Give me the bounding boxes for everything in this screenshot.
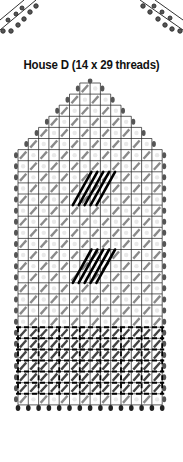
cross-gap (52, 197, 56, 201)
light-stitch (30, 185, 36, 192)
light-stitch (20, 285, 26, 292)
light-stitch (92, 141, 98, 148)
cross-gap (31, 397, 35, 401)
cross-gap (72, 109, 76, 113)
light-stitch (51, 363, 57, 370)
light-stitch (20, 351, 26, 358)
light-stitch (113, 351, 119, 358)
light-stitch (51, 207, 57, 214)
cross-gap (31, 153, 35, 157)
light-stitch (133, 318, 139, 325)
light-stitch (61, 240, 67, 247)
light-stitch (51, 163, 57, 170)
cross-gap (62, 231, 66, 235)
light-stitch (102, 351, 108, 358)
cross-gap (52, 175, 56, 179)
edge-dot (162, 152, 166, 158)
cross-gap (155, 286, 159, 290)
light-stitch (154, 163, 160, 170)
cross-gap (93, 153, 97, 157)
light-stitch (113, 329, 119, 336)
edge-dot (14, 263, 18, 269)
cross-gap (103, 208, 107, 212)
cross-gap (52, 242, 56, 246)
bottom-dot (150, 405, 155, 411)
bottom-dot (78, 405, 83, 411)
edge-dot (14, 296, 18, 302)
cross-gap (124, 297, 128, 301)
light-stitch (61, 196, 67, 203)
cross-gap (42, 275, 46, 279)
light-stitch (72, 363, 78, 370)
light-stitch (123, 340, 129, 347)
edge-dot (100, 86, 104, 92)
cross-gap (155, 220, 159, 224)
light-stitch (30, 374, 36, 381)
cross-gap (155, 308, 159, 312)
cross-gap (124, 208, 128, 212)
cross-gap (103, 319, 107, 323)
light-stitch (82, 307, 88, 314)
cross-gap (52, 131, 56, 135)
light-stitch (41, 174, 47, 181)
light-stitch (61, 152, 67, 159)
cross-gap (72, 286, 76, 290)
light-stitch (123, 152, 129, 159)
cross-gap (114, 242, 118, 246)
light-stitch (51, 229, 57, 236)
bottom-dot (47, 405, 52, 411)
light-stitch (133, 385, 139, 392)
light-stitch (123, 351, 129, 358)
cross-gap (155, 397, 159, 401)
cross-gap (134, 197, 138, 201)
light-stitch (133, 329, 139, 336)
cross-gap (134, 131, 138, 135)
light-stitch (30, 318, 36, 325)
cross-gap (21, 275, 25, 279)
cross-gap (72, 397, 76, 401)
cross-gap (155, 264, 159, 268)
light-stitch (82, 385, 88, 392)
light-stitch (61, 285, 67, 292)
bottom-dot (57, 405, 62, 411)
light-stitch (20, 307, 26, 314)
light-stitch (72, 96, 78, 103)
light-stitch (72, 351, 78, 358)
light-stitch (113, 207, 119, 214)
light-stitch (154, 363, 160, 370)
cross-gap (93, 131, 97, 135)
light-stitch (123, 174, 129, 181)
cross-gap (62, 142, 66, 146)
cross-gap (145, 142, 149, 146)
light-stitch (123, 129, 129, 136)
cross-gap (42, 142, 46, 146)
light-stitch (82, 396, 88, 403)
light-stitch (20, 374, 26, 381)
light-stitch (144, 351, 150, 358)
light-stitch (41, 351, 47, 358)
light-stitch (30, 163, 36, 170)
cross-gap (155, 175, 159, 179)
light-stitch (82, 329, 88, 336)
light-stitch (72, 340, 78, 347)
cross-gap (42, 208, 46, 212)
edge-dot (162, 252, 166, 258)
cross-gap (31, 242, 35, 246)
edge-dot (142, 130, 146, 136)
bottom-dot (67, 405, 72, 411)
light-stitch (51, 329, 57, 336)
cross-gap (134, 242, 138, 246)
light-stitch (144, 396, 150, 403)
bottom-dot (108, 405, 113, 411)
light-stitch (102, 218, 108, 225)
light-stitch (123, 218, 129, 225)
cross-gap (72, 242, 76, 246)
edge-dot (14, 396, 18, 402)
light-stitch (154, 252, 160, 259)
light-stitch (102, 152, 108, 159)
light-stitch (92, 351, 98, 358)
light-stitch (92, 163, 98, 170)
edge-dot (162, 296, 166, 302)
light-stitch (61, 307, 67, 314)
cross-gap (83, 97, 87, 101)
